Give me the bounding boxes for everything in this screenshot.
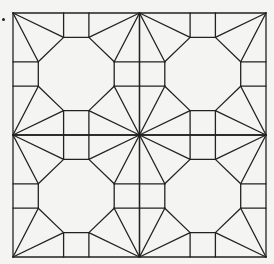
corner-spoke bbox=[140, 86, 165, 135]
corner-spoke bbox=[140, 135, 191, 159]
corner-spoke bbox=[215, 135, 266, 159]
corner-spoke bbox=[13, 13, 64, 37]
corner-spoke bbox=[241, 86, 266, 135]
octagon-edge bbox=[215, 208, 240, 232]
octagon-edge bbox=[89, 208, 114, 232]
corner-spoke bbox=[241, 208, 266, 257]
corner-spoke bbox=[114, 86, 139, 135]
octagon-edge bbox=[89, 86, 114, 110]
tiling-pattern-diagram bbox=[0, 0, 274, 264]
pattern-lines bbox=[13, 13, 266, 257]
octagon-edge bbox=[38, 37, 63, 61]
octagon-edge bbox=[165, 86, 190, 110]
corner-spoke bbox=[241, 135, 266, 184]
corner-spoke bbox=[140, 208, 165, 257]
octagon-edge bbox=[38, 86, 63, 110]
octagon-edge bbox=[38, 159, 63, 183]
octagon-edge bbox=[215, 37, 240, 61]
octagon-edge bbox=[89, 159, 114, 183]
octagon-edge bbox=[165, 37, 190, 61]
corner-spoke bbox=[13, 135, 64, 159]
corner-spoke bbox=[140, 111, 191, 135]
corner-spoke bbox=[114, 135, 139, 184]
corner-spoke bbox=[13, 233, 64, 257]
corner-spoke bbox=[215, 233, 266, 257]
corner-spoke bbox=[13, 208, 38, 257]
corner-spoke bbox=[140, 233, 191, 257]
octagon-edge bbox=[89, 37, 114, 61]
corner-spoke bbox=[215, 13, 266, 37]
corner-spoke bbox=[13, 13, 38, 62]
octagon-edge bbox=[165, 208, 190, 232]
corner-spoke bbox=[114, 13, 139, 62]
corner-spoke bbox=[89, 13, 140, 37]
octagon-edge bbox=[165, 159, 190, 183]
corner-spoke bbox=[140, 135, 165, 184]
corner-spoke bbox=[241, 13, 266, 62]
octagon-edge bbox=[215, 86, 240, 110]
octagon-edge bbox=[38, 208, 63, 232]
octagon-edge bbox=[215, 159, 240, 183]
corner-spoke bbox=[114, 208, 139, 257]
corner-spoke bbox=[13, 86, 38, 135]
corner-spoke bbox=[140, 13, 165, 62]
corner-spoke bbox=[140, 13, 191, 37]
corner-spoke bbox=[89, 135, 140, 159]
corner-spoke bbox=[89, 233, 140, 257]
corner-spoke bbox=[215, 111, 266, 135]
corner-spoke bbox=[13, 111, 64, 135]
corner-spoke bbox=[13, 135, 38, 184]
corner-spoke bbox=[89, 111, 140, 135]
